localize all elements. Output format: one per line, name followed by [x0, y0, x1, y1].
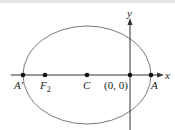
point-a	[149, 73, 154, 78]
label-c: C	[83, 79, 91, 91]
point-origin	[128, 73, 133, 78]
label-a-prime: A′	[13, 79, 24, 91]
x-axis-arrow-icon	[157, 73, 164, 78]
label-a: A	[150, 79, 158, 91]
y-axis-arrow-icon	[128, 18, 133, 25]
ellipse-diagram: x y A′ F2 C (0, 0) A	[0, 0, 175, 130]
label-origin: (0, 0)	[104, 79, 128, 92]
label-f2: F2	[39, 79, 51, 94]
x-axis-label: x	[164, 69, 170, 81]
point-c	[85, 73, 90, 78]
y-axis-label: y	[126, 7, 132, 19]
point-f2	[43, 73, 48, 78]
point-a-prime	[21, 73, 26, 78]
